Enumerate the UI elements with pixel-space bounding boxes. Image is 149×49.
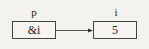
arrow-layer [0,0,149,49]
arrow-head-icon [88,29,93,33]
